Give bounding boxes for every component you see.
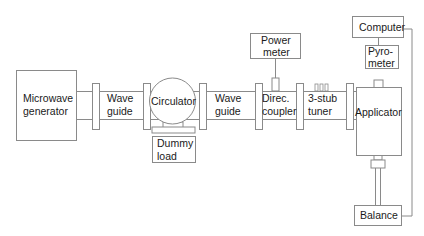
stub-tuner-label-2: tuner bbox=[308, 105, 332, 117]
circulator-label: Circulator bbox=[151, 95, 196, 107]
coupler-probe bbox=[272, 78, 279, 91]
computer-balance-wire bbox=[402, 29, 412, 216]
dummy-load-flange bbox=[152, 127, 195, 133]
waveguide-2-label-1: Wave bbox=[215, 92, 241, 104]
balance-label: Balance bbox=[360, 209, 398, 221]
power-meter-label-2: meter bbox=[263, 46, 290, 58]
directional-coupler-label-2: coupler bbox=[262, 105, 296, 117]
tuner-stub-3 bbox=[325, 84, 328, 91]
directional-coupler-label-1: Direc. bbox=[262, 92, 289, 104]
dummy-load-label-1: Dummy bbox=[157, 137, 193, 149]
pyrometer-label-2: meter bbox=[368, 57, 395, 69]
applicator-label: Applicator bbox=[355, 106, 402, 118]
applicator-box bbox=[356, 87, 402, 156]
dummy-load-label-2: load bbox=[157, 150, 177, 162]
stub-tuner-label-1: 3-stub bbox=[308, 92, 337, 104]
power-meter-label-1: Power bbox=[261, 34, 291, 46]
pyrometer-label-1: Pyro- bbox=[368, 45, 393, 57]
balance-coupling bbox=[371, 160, 385, 168]
computer-label: Computer bbox=[359, 21, 405, 33]
tuner-stub-1 bbox=[315, 84, 318, 91]
tuner-stub-2 bbox=[320, 84, 323, 91]
waveguide-2-label-2: guide bbox=[215, 105, 241, 117]
